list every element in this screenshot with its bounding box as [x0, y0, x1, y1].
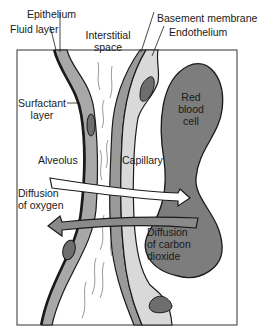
surfactant-layer-label: Surfactant layer	[16, 97, 68, 121]
interstitial-space-label: Interstitial space	[78, 29, 138, 53]
oxygen-diffusion-label: Diffusion of oxygen	[18, 187, 64, 211]
capillary-label: Capillary	[122, 154, 163, 166]
red-blood-cell-label: Red blood cell	[176, 91, 206, 127]
co2-diffusion-label-line3: dioxide	[147, 250, 191, 262]
co2-diffusion-label-line1: Diffusion	[147, 226, 191, 238]
alveolus-label: Alveolus	[38, 154, 78, 166]
interstitial-space-label-line2: space	[78, 41, 138, 53]
co2-diffusion-label: Diffusion of carbon dioxide	[147, 226, 191, 262]
oxygen-diffusion-label-line2: of oxygen	[18, 199, 64, 211]
oxygen-diffusion-label-line1: Diffusion	[18, 187, 64, 199]
surfactant-layer-label-line2: layer	[16, 109, 68, 121]
red-blood-cell-label-line2: blood	[176, 103, 206, 115]
epithelium-label: Epithelium	[27, 8, 76, 20]
fluid-layer-label: Fluid layer	[10, 23, 58, 35]
surfactant-layer-label-line1: Surfactant	[16, 97, 68, 109]
epithelial-nucleus-top	[87, 114, 95, 136]
endothelium-label: Endothelium	[169, 26, 227, 38]
co2-diffusion-label-line2: of carbon	[147, 238, 191, 250]
interstitial-space-label-line1: Interstitial	[78, 29, 138, 41]
basement-membrane-label: Basement membrane	[157, 12, 257, 24]
red-blood-cell-label-line1: Red	[176, 91, 206, 103]
red-blood-cell-label-line3: cell	[176, 115, 206, 127]
